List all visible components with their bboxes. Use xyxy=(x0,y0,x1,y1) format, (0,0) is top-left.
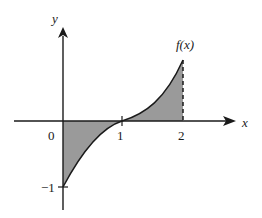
shaded-region-1-2 xyxy=(122,60,183,121)
tick-label-x-0: 0 xyxy=(48,128,55,143)
tick-label-y-neg1: −1 xyxy=(41,180,55,195)
tick-label-x-2: 2 xyxy=(178,128,185,143)
shaded-region-0-1 xyxy=(63,121,122,187)
function-diagram: y x 0 1 2 −1 f(x) xyxy=(0,0,262,218)
curve-label: f(x) xyxy=(176,37,194,52)
tick-label-x-1: 1 xyxy=(117,128,124,143)
x-axis-label: x xyxy=(241,115,248,130)
y-axis-label: y xyxy=(50,11,58,26)
